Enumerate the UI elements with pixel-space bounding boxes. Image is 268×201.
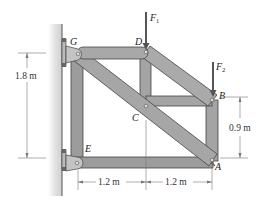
dimension-label-bottom-right: 1.2 m <box>165 177 187 187</box>
pin-G <box>76 52 80 56</box>
pin-A <box>210 158 214 162</box>
joint-label-E: E <box>84 143 91 154</box>
dimension-label-0-9m: 0.9 m <box>229 123 251 133</box>
pin-E <box>75 161 79 165</box>
member-GD <box>77 47 148 59</box>
member-EA <box>77 157 213 168</box>
dimension-label-bottom-left: 1.2 m <box>98 177 120 187</box>
dimension-left-height <box>18 53 46 158</box>
wall <box>48 24 62 196</box>
truss-diagram: F1 F2 G D B C E A 1.8 m 0.9 m <box>0 0 268 201</box>
joint-label-B: B <box>219 90 225 101</box>
svg-text:F2: F2 <box>215 61 225 73</box>
pin-C <box>144 104 148 108</box>
load-F1: F1 <box>143 12 160 50</box>
svg-text:F1: F1 <box>149 12 159 24</box>
member-GE <box>71 54 83 164</box>
dimension-label-1-8m: 1.8 m <box>15 71 37 81</box>
pin-D <box>144 50 148 54</box>
joint-label-G: G <box>70 36 77 47</box>
joint-label-C: C <box>132 112 139 123</box>
joint-label-D: D <box>134 36 143 47</box>
pin-B <box>210 98 214 102</box>
joint-label-A: A <box>214 161 222 172</box>
